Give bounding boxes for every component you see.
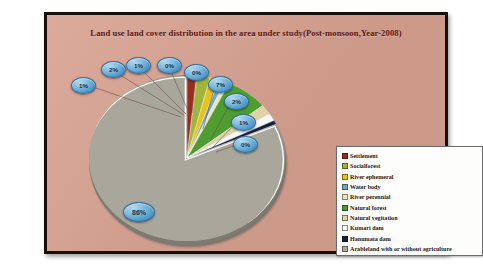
chart-title: Land use land cover distribution in the … [47,28,445,38]
pie-data-label: 2% [224,93,249,110]
pie-slice-group [89,75,283,241]
chart-frame: Land use land cover distribution in the … [44,12,448,254]
pie-data-label: 0% [157,57,182,74]
legend-item: Hanumata dam [342,233,479,243]
legend-item: River perennial [342,192,479,202]
legend-item: Natural forest [342,202,479,212]
legend-item-label: Natural forest [350,205,387,211]
legend-item-label: Kumari dam [350,225,384,231]
pie-data-label: 0% [184,64,209,81]
pie-data-label: 1% [126,57,151,74]
legend-item-label: River ephemeral [350,174,393,180]
legend-item: Natural vegitation [342,213,479,223]
legend-item-label: Settlement [350,153,378,159]
legend-color-swatch [342,163,348,169]
legend-item: Settlement [342,151,479,161]
legend-item: River ephemeral [342,172,479,182]
legend-item-label: Hanumata dam [350,236,391,242]
pie-slices-svg [89,75,285,241]
legend-color-swatch [342,194,348,200]
pie-data-label: 86% [123,202,155,222]
pie-face [89,75,285,241]
legend-item-label: Socialforest [350,163,380,169]
pie-chart: 1%2%1%0%0%7%2%1%0%86% [53,57,303,262]
legend-color-swatch [342,205,348,211]
legend-item-label: Water body [350,184,381,190]
legend-item-label: River perennial [350,194,391,200]
chart-legend: SettlementSocialforestRiver ephemeralWat… [336,146,483,256]
legend-item-label: Natural vegitation [350,215,398,221]
pie-data-label: 7% [208,76,233,93]
legend-item: Kumari dam [342,223,479,233]
legend-color-swatch [342,225,348,231]
legend-color-swatch [342,174,348,180]
legend-item-label: Arableland with or without agriculture [350,246,452,252]
legend-color-swatch [342,153,348,159]
legend-color-swatch [342,184,348,190]
legend-color-swatch [342,215,348,221]
legend-item: Socialforest [342,161,479,171]
legend-color-swatch [342,246,348,252]
pie-data-label: 1% [231,114,256,131]
legend-item: Arableland with or without agriculture [342,244,479,254]
pie-data-label: 2% [101,61,126,78]
pie-data-label: 1% [71,77,96,94]
legend-item: Water body [342,182,479,192]
legend-color-swatch [342,236,348,242]
pie-data-label: 0% [233,136,258,153]
